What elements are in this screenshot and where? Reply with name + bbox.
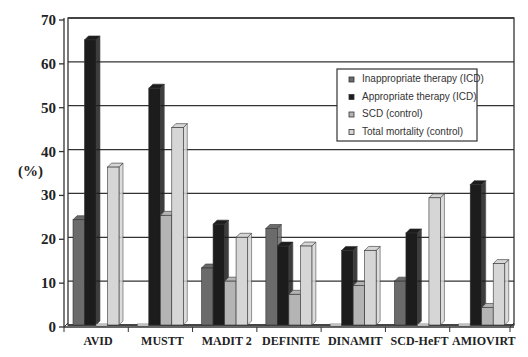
y-tick-label: 30 [41,187,56,203]
bar [85,36,101,325]
bar [330,324,342,326]
y-tick-label: 40 [41,144,56,160]
bar [96,324,108,326]
x-category-label: DINAMIT [328,334,383,348]
y-tick-label: 50 [41,100,56,116]
bar [417,324,429,326]
bar [172,124,188,325]
bar [108,163,124,325]
legend-item: Total mortality (control) [349,126,463,137]
legend-item: Appropriate therapy (ICD) [349,91,477,102]
x-category-label: MADIT 2 [202,334,252,348]
y-tick-label: 20 [41,231,56,247]
legend-label: Appropriate therapy (ICD) [362,91,477,102]
x-category-label: AVID [84,334,113,348]
bar [406,229,422,325]
legend-swatch [349,112,354,117]
legend-label: Total mortality (control) [362,126,463,137]
legend: Inappropriate therapy (ICD)Appropriate t… [337,69,484,141]
y-axis-label: (%) [18,163,43,180]
y-tick-label: 60 [41,56,56,72]
legend-label: SCD (control) [362,108,423,119]
y-tick-label: 0 [49,319,57,335]
x-category-label: DEFINITE [262,334,320,348]
y-tick-label: 10 [41,275,56,291]
bar [236,233,252,325]
legend-swatch [349,95,354,100]
legend-label: Inappropriate therapy (ICD) [362,73,484,84]
x-axis-categories: AVIDMUSTTMADIT 2DEFINITEDINAMITSCD-HeFTA… [64,327,516,348]
bar [459,324,471,326]
bar [300,242,316,325]
y-axis-ticks: 010203040506070 [41,12,64,335]
x-category-label: MUSTT [141,334,184,348]
x-category-label: AMIOVIRT [452,334,516,348]
bar [137,324,149,326]
legend-swatch [349,77,354,82]
bar [365,246,381,325]
bar [429,194,445,325]
legend-swatch [349,130,354,135]
bar [493,260,509,325]
bar-chart: 010203040506070 AVIDMUSTTMADIT 2DEFINITE… [0,0,528,357]
bar [470,181,486,325]
legend-item: Inappropriate therapy (ICD) [349,73,484,84]
x-category-label: SCD-HeFT [391,334,449,348]
y-tick-label: 70 [41,12,56,28]
